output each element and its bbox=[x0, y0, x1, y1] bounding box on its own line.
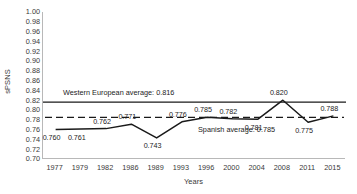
x-axis-tick: 2011 bbox=[294, 164, 320, 171]
y-axis-tick: 0.92 bbox=[14, 48, 40, 55]
y-axis-tick: 0.76 bbox=[14, 126, 40, 133]
x-axis-tick: 1982 bbox=[92, 164, 118, 171]
x-axis-tick: 2000 bbox=[218, 164, 244, 171]
spanish-average-annotation: Spanish average: 0.785 bbox=[198, 126, 275, 133]
data-point-label: 0.762 bbox=[93, 118, 111, 125]
y-axis-tick: 0.98 bbox=[14, 18, 40, 25]
y-axis-tick: 0.96 bbox=[14, 28, 40, 35]
y-axis-tick-labels: 1.000.980.960.940.920.900.880.860.840.82… bbox=[12, 0, 40, 162]
x-axis-tick: 2015 bbox=[319, 164, 345, 171]
y-axis-tick: 0.90 bbox=[14, 57, 40, 64]
x-axis-title: Years bbox=[42, 177, 345, 186]
y-axis-tick: 0.74 bbox=[14, 136, 40, 143]
y-axis-title-label: sPSNS bbox=[3, 69, 12, 94]
x-axis-tick: 1993 bbox=[168, 164, 194, 171]
data-point-label: 0.788 bbox=[320, 105, 338, 112]
x-axis-tick: 1989 bbox=[143, 164, 169, 171]
y-axis-tick: 0.86 bbox=[14, 77, 40, 84]
data-point-label: 0.820 bbox=[270, 89, 288, 96]
x-axis-tick: 1979 bbox=[67, 164, 93, 171]
plot-svg bbox=[43, 12, 346, 159]
y-axis-tick: 0.94 bbox=[14, 38, 40, 45]
y-axis-tick: 0.80 bbox=[14, 106, 40, 113]
data-point-label: 0.776 bbox=[169, 111, 187, 118]
x-axis-tick: 2008 bbox=[269, 164, 295, 171]
data-point-label: 0.782 bbox=[219, 108, 237, 115]
data-point-label: 0.760 bbox=[43, 134, 61, 141]
data-point-label: 0.771 bbox=[118, 113, 136, 120]
x-axis-tick: 1977 bbox=[42, 164, 68, 171]
x-axis-tick-labels: 1977197919821986198919931996200020042008… bbox=[42, 164, 345, 176]
y-axis-tick: 1.00 bbox=[14, 8, 40, 15]
y-axis-tick: 0.84 bbox=[14, 87, 40, 94]
data-point-label: 0.785 bbox=[194, 106, 212, 113]
western-european-average-annotation: Western European average: 0.816 bbox=[63, 89, 174, 96]
data-point-label: 0.761 bbox=[68, 134, 86, 141]
line-chart: sPSNS 1.000.980.960.940.920.900.880.860.… bbox=[0, 0, 357, 194]
plot-area bbox=[42, 12, 345, 159]
data-point-label: 0.775 bbox=[295, 127, 313, 134]
y-axis-tick: 0.70 bbox=[14, 155, 40, 162]
data-point-label: 0.743 bbox=[144, 142, 162, 149]
y-axis-tick: 0.82 bbox=[14, 97, 40, 104]
y-axis-tick: 0.78 bbox=[14, 116, 40, 123]
x-axis-tick: 1986 bbox=[117, 164, 143, 171]
y-axis-tick: 0.88 bbox=[14, 67, 40, 74]
y-axis-tick: 0.72 bbox=[14, 146, 40, 153]
x-axis-tick: 1996 bbox=[193, 164, 219, 171]
x-axis-tick: 2004 bbox=[244, 164, 270, 171]
